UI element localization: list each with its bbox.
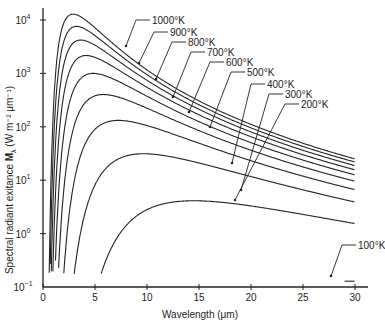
leader-line [126, 20, 150, 46]
curve-300k [74, 154, 354, 274]
x-axis-label: Wavelength (μm) [162, 309, 238, 320]
curve-500k [59, 95, 355, 268]
blackbody-spectral-exitance-chart: 05101520253010−1100101102103104 1000°K90… [0, 0, 385, 323]
curve-200k [101, 201, 354, 274]
curves [49, 14, 354, 281]
leader-line [331, 245, 356, 276]
curve-label: 1000°K [152, 15, 185, 26]
arrowhead [172, 96, 175, 99]
leader-line [139, 32, 168, 63]
x-tick-label: 30 [349, 292, 361, 303]
y-tick-label: 100 [15, 227, 30, 240]
curve-label: 200°K [301, 99, 329, 110]
arrowhead [234, 199, 237, 202]
y-tick-label: 102 [15, 120, 30, 133]
y-tick-label: 104 [15, 13, 30, 26]
arrowhead [330, 275, 333, 278]
leader-line [156, 42, 186, 79]
curve-label: 500°K [247, 67, 275, 78]
arrowhead [138, 62, 141, 65]
arrowhead [125, 45, 128, 48]
curve-400k [64, 120, 355, 273]
x-tick-label: 0 [40, 292, 46, 303]
leader-line [210, 72, 245, 127]
x-tick-label: 10 [141, 292, 153, 303]
y-tick-label: 103 [15, 66, 30, 79]
curve-labels: 1000°K900°K800°K700°K600°K500°K400°K300°… [125, 15, 385, 277]
x-tick-label: 20 [245, 292, 257, 303]
x-tick-label: 25 [297, 292, 309, 303]
arrowhead [155, 78, 158, 81]
leader-line [173, 52, 205, 97]
arrowhead [209, 126, 212, 129]
x-tick-label: 15 [193, 292, 205, 303]
chart-container: 05101520253010−1100101102103104 1000°K90… [0, 0, 385, 323]
y-tick-label: 10−1 [13, 280, 32, 293]
curve-700k [53, 56, 355, 272]
y-tick-label: 101 [15, 173, 30, 186]
curve-800k [51, 40, 354, 271]
arrowhead [188, 111, 191, 114]
arrowhead [231, 162, 234, 165]
leader-line [235, 104, 299, 200]
x-tick-label: 5 [92, 292, 98, 303]
curve-1000k [49, 14, 354, 273]
curve-label: 100°K [358, 240, 385, 251]
